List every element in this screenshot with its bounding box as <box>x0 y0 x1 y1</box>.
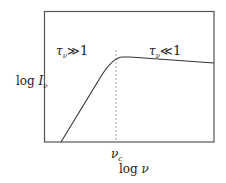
y-axis-label: log Iν <box>16 75 48 90</box>
spectrum-curve <box>61 57 214 142</box>
spectrum-diagram: τν≫1 τν≪1 log Iν νc log ν <box>0 0 226 183</box>
optically-thin-label: τν≪1 <box>149 42 181 60</box>
tau-symbol: τ <box>149 44 156 58</box>
critical-frequency-label: νc <box>111 145 122 163</box>
region-value: 1 <box>173 43 181 58</box>
log-prefix: log <box>16 74 35 88</box>
log-prefix: log <box>119 162 138 176</box>
plot-frame <box>45 12 215 143</box>
x-axis-label: log ν <box>119 163 149 175</box>
nu-symbol: ν <box>142 162 149 176</box>
much-greater-sign: ≫ <box>67 44 80 58</box>
tau-symbol: τ <box>56 44 63 58</box>
optically-thick-label: τν≫1 <box>56 42 88 60</box>
region-value: 1 <box>80 43 88 58</box>
nu-subscript: ν <box>43 82 47 90</box>
much-less-sign: ≪ <box>160 44 173 58</box>
